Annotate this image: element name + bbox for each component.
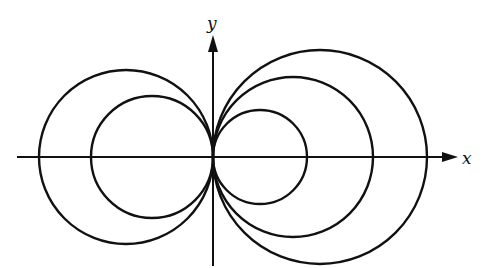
y-axis-label: y (206, 13, 217, 33)
tangent-circles-diagram: x y (0, 0, 488, 268)
y-axis-arrow-icon (208, 35, 218, 52)
x-axis-arrow-icon (442, 152, 458, 162)
x-axis-label: x (462, 148, 472, 168)
